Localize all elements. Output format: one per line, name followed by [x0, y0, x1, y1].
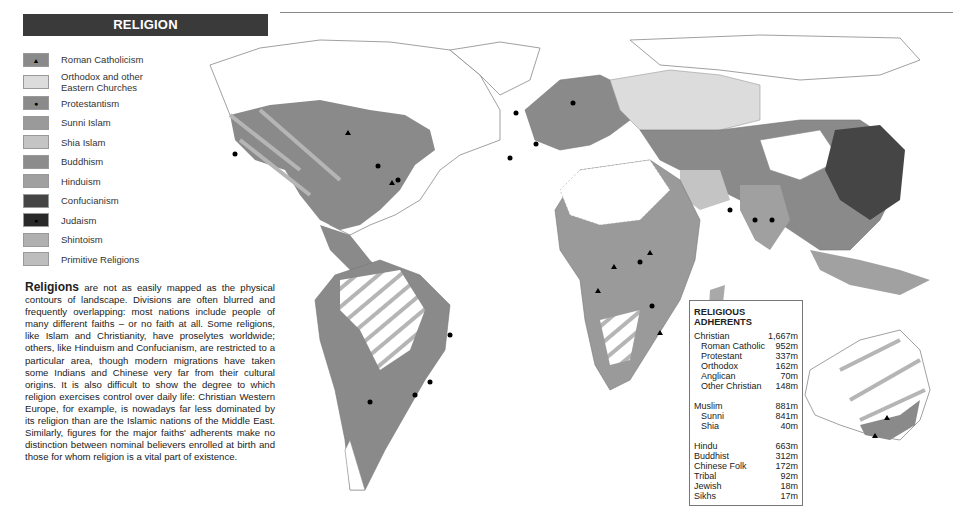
legend-swatch — [23, 116, 49, 130]
adherents-title: RELIGIOUS ADHERENTS — [694, 307, 798, 327]
adherents-label: Sunni — [694, 411, 724, 421]
adherents-label: Shia — [694, 421, 719, 431]
legend-swatch: ▲ — [23, 53, 49, 67]
adherents-value: 1,667m — [768, 331, 798, 341]
adherents-row: Sunni841m — [694, 411, 798, 421]
adherents-row: Muslim881m — [694, 401, 798, 411]
world-religion-map — [200, 20, 973, 517]
adherents-label: Orthodox — [694, 361, 738, 371]
legend-label: Protestantism — [61, 98, 119, 109]
south-america — [315, 260, 450, 490]
religious-adherents-table: RELIGIOUS ADHERENTS Christian1,667mRoman… — [689, 300, 803, 506]
adherents-row: Shia40m — [694, 421, 798, 431]
intro-lead: Religions — [25, 280, 79, 294]
adherents-row: Sikhs17m — [694, 491, 798, 501]
legend-swatch: ● — [23, 96, 49, 110]
legend-label: Sunni Islam — [61, 117, 111, 128]
adherents-value: 148m — [775, 381, 798, 391]
dot-marker-icon: ● — [34, 217, 38, 224]
adherents-value: 881m — [775, 401, 798, 411]
legend-label: Hinduism — [61, 176, 101, 187]
adherents-row: Other Christian148m — [694, 381, 798, 391]
adherents-row: Chinese Folk172m — [694, 461, 798, 471]
legend-swatch — [23, 252, 49, 266]
legend-label: Shintoism — [61, 234, 103, 245]
adherents-row: Tribal92m — [694, 471, 798, 481]
australia — [805, 250, 930, 440]
legend-swatch: ● — [23, 213, 49, 227]
adherents-value: 172m — [775, 461, 798, 471]
triangle-marker-icon: ▲ — [33, 56, 40, 63]
adherents-row: Christian1,667m — [694, 331, 798, 341]
legend-label: Primitive Religions — [61, 254, 139, 265]
adherents-value: 337m — [775, 351, 798, 361]
adherents-label: Chinese Folk — [694, 461, 747, 471]
adherents-row: Anglican70m — [694, 371, 798, 381]
legend-label: Orthodox and other Eastern Churches — [61, 71, 161, 93]
legend-label: Roman Catholicism — [61, 54, 143, 65]
adherents-value: 17m — [780, 491, 798, 501]
legend-swatch — [23, 155, 49, 169]
adherents-label: Jewish — [694, 481, 722, 491]
legend-swatch — [23, 135, 49, 149]
adherents-value: 162m — [775, 361, 798, 371]
adherents-value: 312m — [775, 451, 798, 461]
legend-swatch — [23, 174, 49, 188]
adherents-label: Other Christian — [694, 381, 762, 391]
legend-label: Judaism — [61, 215, 96, 226]
legend-label: Confucianism — [61, 195, 119, 206]
legend-label: Buddhism — [61, 156, 103, 167]
adherents-value: 18m — [780, 481, 798, 491]
adherents-value: 841m — [775, 411, 798, 421]
legend-swatch — [23, 233, 49, 247]
adherents-value: 70m — [780, 371, 798, 381]
adherents-label: Protestant — [694, 351, 742, 361]
adherents-label: Sikhs — [694, 491, 716, 501]
adherents-row: Roman Catholic952m — [694, 341, 798, 351]
dot-marker-icon: ● — [34, 100, 38, 107]
adherents-value: 663m — [775, 441, 798, 451]
adherents-row: Jewish18m — [694, 481, 798, 491]
adherents-value: 952m — [775, 341, 798, 351]
adherents-label: Roman Catholic — [694, 341, 765, 351]
legend-swatch — [23, 194, 49, 208]
north-america — [210, 40, 540, 290]
adherents-value: 40m — [780, 421, 798, 431]
adherents-label: Anglican — [694, 371, 736, 381]
adherents-row: Orthodox162m — [694, 361, 798, 371]
legend-label: Shia Islam — [61, 137, 105, 148]
adherents-label: Muslim — [694, 401, 723, 411]
adherents-label: Buddhist — [694, 451, 729, 461]
top-divider — [280, 12, 953, 13]
adherents-label: Christian — [694, 331, 730, 341]
adherents-label: Hindu — [694, 441, 718, 451]
adherents-value: 92m — [780, 471, 798, 481]
adherents-row: Buddhist312m — [694, 451, 798, 461]
adherents-row: Hindu663m — [694, 441, 798, 451]
adherents-label: Tribal — [694, 471, 716, 481]
adherents-row: Protestant337m — [694, 351, 798, 361]
legend-swatch — [23, 75, 49, 89]
